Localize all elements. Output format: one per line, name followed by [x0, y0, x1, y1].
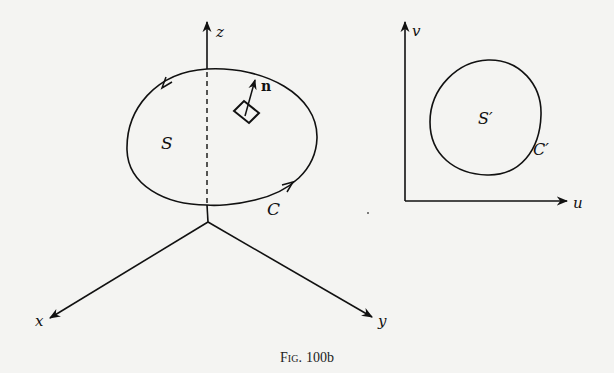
- y-axis-label: y: [377, 312, 387, 330]
- figure-canvas: z x y S C n v u S′ C′ Fig.100b: [0, 0, 614, 373]
- surface-label-s: S: [161, 133, 173, 153]
- region-label-s-prime: S′: [478, 109, 493, 128]
- normal-label-n: n: [261, 78, 271, 94]
- normal-vector: [245, 80, 255, 116]
- left-diagram: z x y S C n: [35, 22, 387, 330]
- right-diagram: v u S′ C′: [405, 22, 583, 212]
- z-axis-label: z: [215, 23, 224, 41]
- x-axis-label: x: [35, 312, 44, 330]
- figure-caption: Fig.100b: [280, 350, 334, 365]
- z-axis-lower: [207, 205, 208, 222]
- u-axis-label: u: [573, 194, 583, 212]
- curve-label-c: C: [267, 199, 280, 219]
- curve-c: [127, 69, 317, 206]
- caption-number: 100b: [306, 350, 334, 365]
- y-axis: [208, 222, 372, 317]
- curve-label-c-prime: C′: [533, 140, 549, 159]
- x-axis: [50, 222, 208, 318]
- caption-prefix: Fig.: [280, 350, 302, 365]
- v-axis-label: v: [412, 22, 421, 40]
- print-dot: [367, 212, 369, 214]
